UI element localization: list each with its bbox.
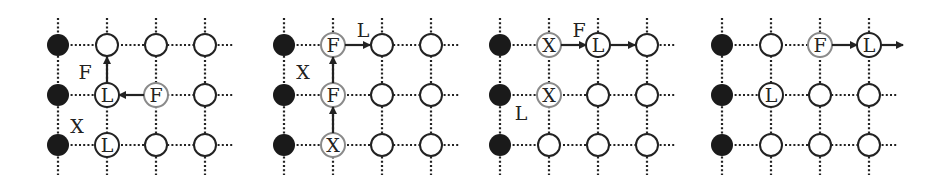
empty-node	[145, 34, 167, 56]
annotation-label: F	[572, 19, 585, 41]
filled-node	[47, 34, 69, 56]
filled-node	[711, 134, 733, 156]
filled-node	[47, 84, 69, 106]
empty-node	[636, 134, 658, 156]
node-label: X	[542, 84, 556, 106]
empty-node	[809, 134, 831, 156]
empty-node	[371, 84, 393, 106]
filled-node	[273, 34, 295, 56]
node-label: F	[149, 84, 162, 106]
empty-node	[194, 84, 216, 106]
filled-node	[711, 84, 733, 106]
node-label: F	[813, 34, 826, 56]
filled-node	[489, 134, 511, 156]
node-label: X	[542, 34, 556, 56]
empty-node	[587, 84, 609, 106]
empty-node	[587, 134, 609, 156]
filled-node	[47, 134, 69, 156]
empty-node	[538, 134, 560, 156]
node-label: F	[326, 34, 339, 56]
empty-node	[371, 34, 393, 56]
panel-3: XLXFL	[489, 18, 675, 175]
annotation-label: X	[70, 115, 84, 137]
node-label: F	[326, 84, 339, 106]
filled-node	[489, 34, 511, 56]
empty-node	[858, 84, 880, 106]
filled-node	[489, 84, 511, 106]
node-label: L	[863, 34, 876, 56]
empty-node	[420, 84, 442, 106]
annotation-label: F	[78, 61, 91, 83]
empty-node	[636, 34, 658, 56]
panel-4: FLL	[711, 18, 903, 175]
empty-node	[194, 34, 216, 56]
empty-node	[371, 134, 393, 156]
node-label: L	[101, 134, 114, 156]
annotation-label: X	[296, 61, 310, 83]
filled-node	[273, 84, 295, 106]
empty-node	[96, 34, 118, 56]
empty-node	[760, 134, 782, 156]
empty-node	[809, 84, 831, 106]
empty-node	[420, 34, 442, 56]
empty-node	[760, 34, 782, 56]
node-label: X	[326, 134, 340, 156]
empty-node	[636, 84, 658, 106]
empty-node	[420, 134, 442, 156]
filled-node	[273, 134, 295, 156]
panel-2: FFXXL	[273, 18, 459, 175]
empty-node	[145, 134, 167, 156]
empty-node	[858, 134, 880, 156]
node-label: L	[765, 84, 778, 106]
panel-1: LFLFX	[47, 18, 233, 175]
node-label: L	[592, 34, 605, 56]
annotation-label: L	[357, 19, 370, 41]
diagram-canvas: LFLFXFFXXLXLXFLFLL	[0, 0, 932, 188]
annotation-label: L	[515, 102, 528, 124]
filled-node	[711, 34, 733, 56]
node-label: L	[101, 84, 114, 106]
empty-node	[194, 134, 216, 156]
